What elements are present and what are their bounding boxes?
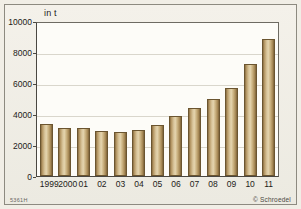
bar	[77, 128, 90, 177]
x-axis-labels: 199920000102030405060708091011	[37, 179, 278, 189]
bar-slot	[77, 22, 90, 176]
y-axis-tick-label: 2000	[0, 141, 36, 151]
x-axis-tick-label: 11	[262, 179, 275, 189]
bar	[262, 39, 275, 176]
x-axis-tick-label: 09	[225, 179, 238, 189]
x-axis-tick-label: 03	[114, 179, 127, 189]
bar-slot	[207, 22, 220, 176]
bar-slot	[58, 22, 71, 176]
bar	[225, 88, 238, 176]
bar-slot	[244, 22, 257, 176]
x-axis-tick-label: 07	[188, 179, 201, 189]
x-axis-tick-label: 06	[169, 179, 182, 189]
bar	[95, 131, 108, 176]
x-axis-tick-label: 2000	[58, 179, 71, 189]
bar	[151, 125, 164, 176]
bar	[244, 64, 257, 176]
bar-slot	[132, 22, 145, 176]
x-axis-tick-label: 04	[132, 179, 145, 189]
bar-slot	[114, 22, 127, 176]
y-axis-tick-label: 8000	[0, 48, 36, 58]
bar	[40, 124, 53, 176]
bar	[58, 128, 71, 176]
x-axis-tick-label: 05	[151, 179, 164, 189]
bar-slot	[169, 22, 182, 176]
figure-code: 5361H	[10, 197, 28, 203]
x-axis-tick-label: 02	[95, 179, 108, 189]
y-axis-unit-label: in t	[44, 8, 57, 18]
y-axis-tick-label: 0	[0, 172, 36, 182]
bar	[169, 116, 182, 176]
chart-figure: in t 0200040006000800010000 199920000102…	[0, 0, 301, 209]
x-axis-tick-label: 10	[244, 179, 257, 189]
x-axis-tick-label: 08	[207, 179, 220, 189]
bar	[188, 108, 201, 176]
y-axis-tick-label: 6000	[0, 79, 36, 89]
bar-series	[37, 22, 278, 176]
bar-slot	[225, 22, 238, 176]
bar-slot	[95, 22, 108, 176]
bar-slot	[262, 22, 275, 176]
y-axis-tick-label: 10000	[0, 17, 36, 27]
y-axis-tick-label: 4000	[0, 110, 36, 120]
bar	[114, 132, 127, 176]
bar-slot	[151, 22, 164, 176]
bar	[132, 130, 145, 176]
bar	[207, 99, 220, 176]
x-axis-tick-label: 01	[77, 179, 90, 189]
x-axis-tick-label: 1999	[40, 179, 53, 189]
copyright-credit: © Schroedel	[253, 196, 291, 203]
bar-slot	[40, 22, 53, 176]
bar-slot	[188, 22, 201, 176]
